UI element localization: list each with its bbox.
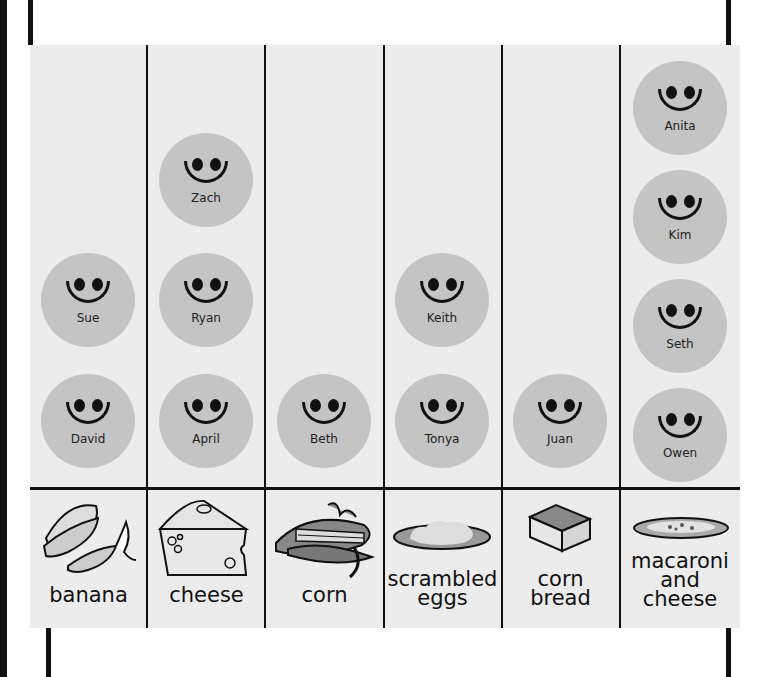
smiley-face-icon: April bbox=[159, 374, 253, 468]
person-name: Juan bbox=[513, 432, 607, 446]
person-name: Kim bbox=[633, 228, 727, 242]
person-name: Keith bbox=[395, 311, 489, 325]
smiley-face-icon: Seth bbox=[633, 279, 727, 373]
person-name: Tonya bbox=[395, 432, 489, 446]
frame-post bbox=[46, 628, 51, 677]
smiley-face-icon: Sue bbox=[41, 253, 135, 347]
scrambled-eggs-icon bbox=[392, 513, 492, 553]
page-edge bbox=[0, 0, 7, 677]
column-scrambled-eggs: Tonya Keith scrambled eggs bbox=[384, 45, 501, 628]
banana-icon bbox=[38, 498, 138, 578]
person-name: Anita bbox=[633, 119, 727, 133]
frame-post bbox=[726, 628, 731, 677]
person-name: April bbox=[159, 432, 253, 446]
frame-post bbox=[28, 0, 33, 45]
cheese-icon bbox=[156, 497, 252, 579]
smiley-face-icon: Owen bbox=[633, 388, 727, 482]
smiley-face-icon: Kim bbox=[633, 170, 727, 264]
smiley-face-icon: Tonya bbox=[395, 374, 489, 468]
person-name: David bbox=[41, 432, 135, 446]
person-name: Beth bbox=[277, 432, 371, 446]
category-label: banana bbox=[30, 585, 147, 605]
column-corn-bread: Juan corn bread bbox=[502, 45, 619, 628]
category-label: eggs bbox=[384, 588, 501, 608]
category-label: bread bbox=[502, 588, 619, 608]
smiley-face-icon: Anita bbox=[633, 61, 727, 155]
category-label: cheese bbox=[620, 589, 740, 609]
person-name: Ryan bbox=[159, 311, 253, 325]
corn-bread-icon bbox=[528, 501, 594, 553]
smiley-face-icon: Keith bbox=[395, 253, 489, 347]
person-name: Owen bbox=[633, 446, 727, 460]
category-label: corn bbox=[266, 585, 383, 605]
pictograph-chart: David Sue banana April Ryan Zach cheese … bbox=[30, 45, 740, 628]
person-name: Zach bbox=[159, 191, 253, 205]
column-macaroni-and-cheese: Owen Seth Kim Anita macaroni and cheese bbox=[620, 45, 740, 628]
corn-icon bbox=[268, 495, 380, 579]
macaroni-icon bbox=[632, 515, 730, 541]
column-corn: Beth corn bbox=[266, 45, 383, 628]
smiley-face-icon: Zach bbox=[159, 133, 253, 227]
column-banana: David Sue banana bbox=[30, 45, 147, 628]
smiley-face-icon: Ryan bbox=[159, 253, 253, 347]
smiley-face-icon: Juan bbox=[513, 374, 607, 468]
category-label: cheese bbox=[148, 585, 265, 605]
person-name: Seth bbox=[633, 337, 727, 351]
frame-post bbox=[726, 0, 731, 45]
smiley-face-icon: Beth bbox=[277, 374, 371, 468]
person-name: Sue bbox=[41, 311, 135, 325]
smiley-face-icon: David bbox=[41, 374, 135, 468]
column-cheese: April Ryan Zach cheese bbox=[148, 45, 265, 628]
